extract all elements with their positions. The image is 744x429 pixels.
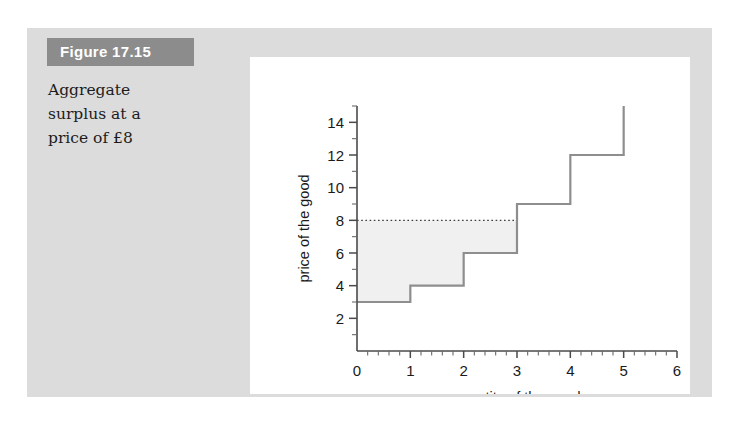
y-tick-label: 4 — [336, 277, 344, 294]
x-axis-tick-labels: 0123456 — [353, 362, 681, 379]
caption-line-2: surplus at a — [48, 102, 237, 126]
x-tick-label: 3 — [513, 362, 521, 379]
caption-line-1: Aggregate — [48, 78, 237, 102]
caption-line-3: price of £8 — [48, 126, 237, 150]
chart-panel: 0123456 2468101214 quantity of the good … — [250, 57, 690, 394]
x-tick-label: 2 — [459, 362, 467, 379]
x-axis-ticks — [368, 351, 677, 358]
figure-block: Figure 17.15 Aggregate surplus at a pric… — [27, 28, 712, 397]
y-tick-label: 10 — [327, 179, 344, 196]
y-tick-label: 2 — [336, 310, 344, 327]
x-tick-label: 0 — [353, 362, 361, 379]
y-tick-label: 12 — [327, 147, 344, 164]
x-tick-label: 5 — [619, 362, 627, 379]
y-axis-ticks — [349, 106, 357, 335]
y-tick-label: 6 — [336, 245, 344, 262]
surplus-shaded-region — [357, 220, 517, 302]
x-tick-label: 4 — [566, 362, 574, 379]
x-tick-label: 1 — [406, 362, 414, 379]
y-tick-label: 14 — [327, 114, 344, 131]
step-function-chart: 0123456 2468101214 quantity of the good … — [250, 57, 690, 394]
figure-number-label: Figure 17.15 — [47, 38, 194, 66]
figure-caption-area: Figure 17.15 Aggregate surplus at a pric… — [47, 38, 237, 150]
figure-caption-text: Aggregate surplus at a price of £8 — [47, 78, 237, 150]
x-axis-title: quantity of the good — [453, 389, 580, 394]
y-axis-title: price of the good — [296, 174, 312, 282]
y-tick-label: 8 — [336, 212, 344, 229]
y-axis-tick-labels: 2468101214 — [327, 114, 344, 327]
x-tick-label: 6 — [673, 362, 681, 379]
